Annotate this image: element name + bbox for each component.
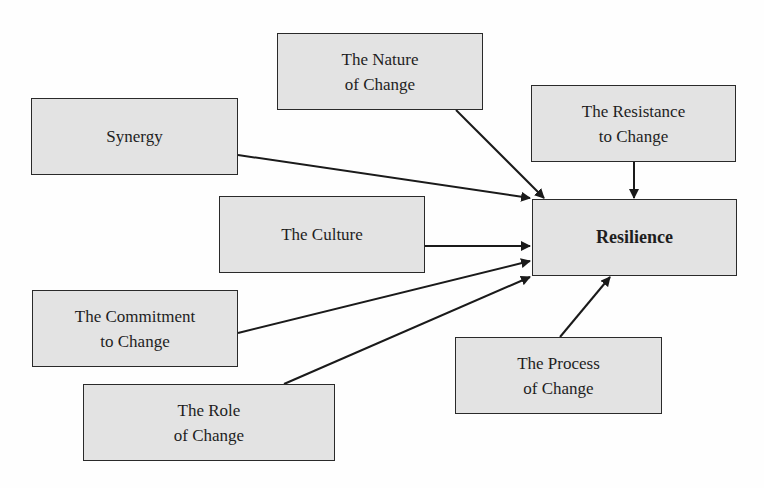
diagram-canvas: The Nature of Change Synergy The Resista… [0,0,764,488]
node-nature-of-change: The Nature of Change [277,33,483,110]
node-role-of-change: The Role of Change [83,384,335,461]
node-culture: The Culture [219,196,425,273]
node-resilience: Resilience [532,199,737,276]
edge-synergy-resilience [238,155,530,198]
node-synergy: Synergy [31,98,238,175]
node-process-of-change: The Process of Change [455,337,662,414]
node-commitment-to-change: The Commitment to Change [32,290,238,367]
edge-process-resilience [560,277,610,337]
node-resistance-to-change: The Resistance to Change [531,85,736,162]
